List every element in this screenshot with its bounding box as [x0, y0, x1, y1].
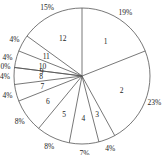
slice-label-2: 2: [120, 86, 124, 95]
slice-label-7: 7: [41, 82, 45, 91]
slice-label-6: 6: [46, 97, 50, 106]
percent-label-9: 0%: [1, 62, 11, 71]
slice-label-5: 5: [62, 110, 66, 119]
slice-label-3: 3: [95, 110, 99, 119]
percent-label-11: 4%: [10, 35, 20, 44]
percent-label-2: 23%: [148, 98, 162, 107]
slice-label-4: 4: [81, 114, 85, 123]
percent-label-6: 8%: [15, 117, 25, 126]
pie-chart: 119%223%34%47%58%68%74%84%90%104%114%121…: [0, 0, 163, 155]
percent-label-10: 4%: [2, 53, 12, 62]
pie-slices: [14, 8, 150, 144]
percent-label-4: 7%: [79, 149, 89, 155]
slice-label-1: 1: [104, 37, 108, 46]
percent-label-12: 15%: [40, 3, 54, 12]
slice-label-12: 12: [59, 34, 67, 43]
slice-label-11: 11: [43, 52, 50, 61]
slice-label-10: 10: [39, 62, 47, 71]
percent-label-1: 19%: [118, 8, 132, 17]
percent-label-3: 4%: [105, 144, 115, 153]
percent-label-8: 4%: [0, 72, 10, 81]
percent-label-5: 8%: [44, 142, 54, 151]
percent-label-7: 4%: [2, 91, 12, 100]
